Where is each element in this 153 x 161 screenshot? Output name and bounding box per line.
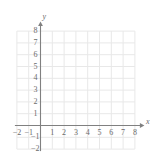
x-axis-label: x	[146, 118, 150, 126]
y-tick-label: 6	[21, 51, 38, 59]
y-tick-label: 7	[21, 39, 38, 47]
y-tick-label: 4	[21, 74, 38, 82]
y-tick-label: 8	[21, 27, 38, 35]
y-tick-label: 1	[21, 110, 38, 118]
y-tick-label: −1	[23, 133, 40, 141]
y-axis-label: y	[43, 13, 47, 21]
coordinate-grid-figure: −2−112345678−2−112345678 x y	[0, 0, 153, 161]
y-tick-label: −2	[23, 145, 40, 153]
y-tick-label: 3	[21, 86, 38, 94]
x-tick-label: 8	[126, 129, 144, 137]
y-tick-label: 5	[21, 63, 38, 71]
y-tick-label: 2	[21, 98, 38, 106]
